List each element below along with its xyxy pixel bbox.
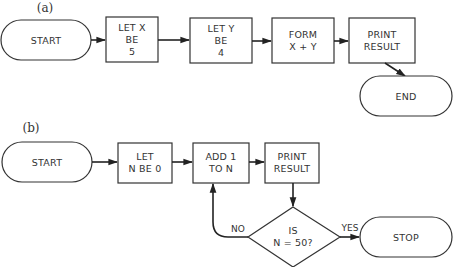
node-b-stop: STOP bbox=[360, 217, 452, 257]
node-label-line: BE bbox=[215, 35, 228, 46]
node-label-line: N BE 0 bbox=[129, 163, 162, 174]
diagram-a: (a) START LET X BE 5 LET Y BE 4 bbox=[1, 1, 452, 117]
node-b-decision: IS N = 50? bbox=[248, 207, 340, 267]
node-label-line: BE bbox=[126, 34, 139, 45]
node-a-form: FORM X + Y bbox=[272, 18, 334, 63]
node-a-let-x: LET X BE 5 bbox=[106, 17, 158, 62]
node-label-line: PRINT bbox=[367, 29, 396, 40]
edge-a-print-to-end bbox=[385, 63, 405, 76]
node-label-line: LET X bbox=[118, 22, 146, 33]
node-b-start: START bbox=[2, 142, 92, 182]
node-label-line: 4 bbox=[218, 47, 224, 58]
panel-label-b: (b) bbox=[22, 121, 39, 135]
node-label: STOP bbox=[393, 232, 419, 243]
node-b-let-n: LET N BE 0 bbox=[118, 143, 172, 183]
diagram-b: (b) START LET N BE 0 ADD 1 TO N PRINT bbox=[2, 121, 452, 267]
node-label-line: 5 bbox=[129, 46, 135, 57]
node-label-line: RESULT bbox=[364, 41, 401, 52]
node-a-end: END bbox=[360, 76, 452, 116]
node-label-line: LET bbox=[136, 151, 154, 162]
node-label-line: IS bbox=[288, 225, 297, 236]
node-label: START bbox=[32, 157, 62, 168]
node-a-let-y: LET Y BE 4 bbox=[190, 18, 252, 63]
node-b-add: ADD 1 TO N bbox=[193, 143, 249, 183]
edge-label-no: NO bbox=[231, 224, 245, 234]
node-label-line: X + Y bbox=[289, 41, 316, 52]
node-a-start: START bbox=[1, 20, 91, 60]
node-a-print: PRINT RESULT bbox=[349, 18, 415, 63]
node-label-line: LET Y bbox=[208, 23, 235, 34]
node-label-line: N = 50? bbox=[273, 237, 313, 248]
edge-label-yes: YES bbox=[341, 223, 359, 233]
node-label-line: RESULT bbox=[274, 163, 311, 174]
node-label: START bbox=[31, 35, 61, 46]
node-label-line: PRINT bbox=[277, 151, 306, 162]
node-label-line: TO N bbox=[208, 163, 233, 174]
flowchart-canvas: (a) START LET X BE 5 LET Y BE 4 bbox=[0, 0, 455, 267]
node-label-line: ADD 1 bbox=[205, 151, 236, 162]
node-b-print: PRINT RESULT bbox=[265, 143, 319, 183]
node-label-line: FORM bbox=[289, 29, 318, 40]
panel-label-a: (a) bbox=[37, 1, 54, 15]
node-label: END bbox=[395, 91, 416, 102]
